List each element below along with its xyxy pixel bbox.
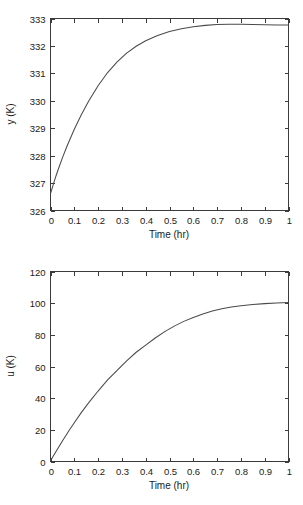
- x-tick-label: 0: [49, 466, 54, 477]
- plot-frame-bottom: [51, 272, 289, 462]
- x-tick-label: 0.8: [235, 466, 248, 477]
- y-tick-label: 332: [30, 41, 46, 52]
- y-tick-label: 0: [40, 457, 45, 468]
- y-tick-label: 80: [35, 330, 46, 341]
- chart-y-temperature: 00.10.20.30.40.50.60.70.80.91 3263273283…: [0, 0, 303, 253]
- x-tick-label: 1: [287, 466, 292, 477]
- chart-u-input: 00.10.20.30.40.50.60.70.80.91 0204060801…: [0, 253, 303, 505]
- x-tick-labels-bottom: 00.10.20.30.40.50.60.70.80.91: [49, 466, 292, 477]
- x-tick-label: 0.5: [164, 215, 177, 226]
- x-tick-label: 0.4: [140, 466, 153, 477]
- y-tick-label: 331: [30, 68, 46, 79]
- x-tick-label: 0.5: [164, 466, 177, 477]
- x-tick-label: 0.2: [92, 466, 105, 477]
- x-ticks-top: [52, 19, 290, 211]
- y-axis-title-top: y (K): [5, 103, 16, 124]
- chart-y-svg: 00.10.20.30.40.50.60.70.80.91 3263273283…: [0, 0, 303, 253]
- x-tick-label: 0.6: [187, 466, 200, 477]
- y-tick-label: 100: [30, 298, 46, 309]
- plot-frame-top: [51, 19, 289, 211]
- x-tick-label: 0.1: [68, 466, 81, 477]
- chart-u-svg: 00.10.20.30.40.50.60.70.80.91 0204060801…: [0, 253, 303, 505]
- x-axis-title-bottom: Time (hr): [149, 480, 189, 491]
- y-tick-label: 327: [30, 178, 46, 189]
- y-tick-label: 328: [30, 151, 46, 162]
- x-tick-label: 0.3: [116, 215, 129, 226]
- x-ticks-bottom: [52, 272, 290, 462]
- y-tick-label: 326: [30, 206, 46, 217]
- x-tick-labels-top: 00.10.20.30.40.50.60.70.80.91: [49, 215, 292, 226]
- x-tick-label: 0.8: [235, 215, 248, 226]
- y-tick-label: 40: [35, 393, 46, 404]
- y-tick-label: 333: [30, 14, 46, 25]
- x-tick-label: 0.2: [92, 215, 105, 226]
- x-tick-label: 0.1: [68, 215, 81, 226]
- axis-box-bottom: [51, 272, 289, 462]
- axis-box-top: [51, 19, 289, 211]
- y-tick-label: 330: [30, 96, 46, 107]
- x-tick-label: 0.9: [259, 215, 272, 226]
- x-tick-label: 0.6: [187, 215, 200, 226]
- y-tick-labels-bottom: 020406080100120: [30, 267, 46, 468]
- x-tick-label: 0.9: [259, 466, 272, 477]
- x-tick-label: 0.7: [211, 215, 224, 226]
- x-tick-label: 0.3: [116, 466, 129, 477]
- x-tick-label: 0: [49, 215, 54, 226]
- y-tick-label: 20: [35, 425, 46, 436]
- y-tick-label: 120: [30, 267, 46, 278]
- y-ticks-bottom: [51, 273, 289, 463]
- y-tick-label: 329: [30, 123, 46, 134]
- y-axis-title-bottom: u (K): [5, 355, 16, 377]
- x-axis-title-top: Time (hr): [149, 229, 189, 240]
- y-tick-label: 60: [35, 362, 46, 373]
- data-curve-u: [51, 303, 289, 461]
- y-tick-labels-top: 326327328329330331332333: [30, 14, 46, 217]
- x-tick-label: 0.4: [140, 215, 153, 226]
- x-tick-label: 1: [287, 215, 292, 226]
- data-curve-y: [51, 24, 289, 193]
- y-ticks-top: [51, 20, 289, 212]
- x-tick-label: 0.7: [211, 466, 224, 477]
